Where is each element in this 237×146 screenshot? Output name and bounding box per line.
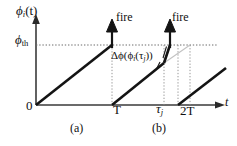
x-tick-label-T: T [113, 103, 121, 116]
ramp-1 [36, 45, 112, 105]
fire-label-1: fire [116, 11, 133, 23]
threshold-label-phi: ϕ [15, 32, 22, 47]
threshold-label-sub: th [22, 38, 29, 48]
panel-label-b: (b) [152, 122, 166, 134]
fire-label-2: fire [172, 11, 189, 23]
origin-tick-label: 0 [26, 99, 33, 112]
y-axis-label-phi: ϕ [16, 3, 23, 18]
x-tick-label-tau-j: τj [156, 102, 163, 117]
phase-diagram-figure: ϕi(t) ϕth 0 T τj 2T t fire fire Δϕ(ϕi(τj… [0, 0, 237, 146]
x-tick-label-2T: 2T [180, 104, 194, 117]
x-axis-arrowhead [215, 101, 225, 108]
delta-phi-label: Δϕ(ϕi(τj)) [111, 50, 153, 63]
threshold-label: ϕth [15, 33, 28, 48]
y-axis-label-tail: (t) [25, 3, 37, 18]
delta-phi-head: Δϕ(ϕ [111, 49, 133, 61]
y-axis-label: ϕi(t) [16, 4, 37, 19]
ramp-3 [178, 68, 226, 105]
x-axis-label: t [225, 96, 228, 108]
panel-label-a: (a) [70, 122, 83, 134]
tau-subscript: j [161, 107, 163, 117]
delta-phi-tail: )) [145, 49, 152, 61]
